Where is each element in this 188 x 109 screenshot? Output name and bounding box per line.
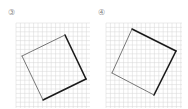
- square-edge: [22, 35, 65, 56]
- square-edge-thick: [132, 29, 176, 51]
- grid-panel-3: [16, 23, 90, 108]
- square-edge: [112, 73, 154, 95]
- square-edge-thick: [65, 35, 86, 79]
- square-edge-thick: [154, 51, 176, 95]
- grid-panel-4: [106, 23, 182, 108]
- grid-diagrams: [0, 0, 188, 109]
